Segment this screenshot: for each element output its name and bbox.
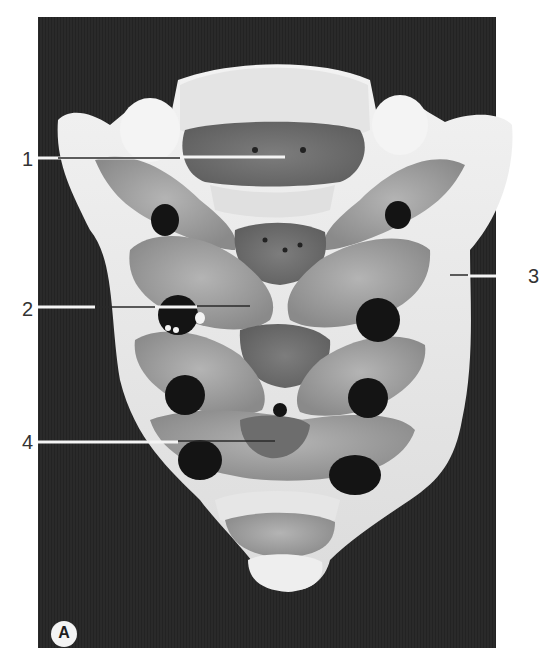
- label-1: 1: [22, 149, 33, 169]
- sacrum-illustration: [0, 0, 560, 663]
- leader-line-1: [38, 157, 285, 158]
- panel-letter: A: [57, 624, 71, 642]
- left-superior-articular-process: [120, 98, 180, 162]
- s1-body: [182, 122, 364, 187]
- right-superior-articular-process: [372, 95, 428, 155]
- label-4: 4: [22, 432, 33, 452]
- label-2: 2: [22, 299, 33, 319]
- label-3: 3: [528, 266, 539, 286]
